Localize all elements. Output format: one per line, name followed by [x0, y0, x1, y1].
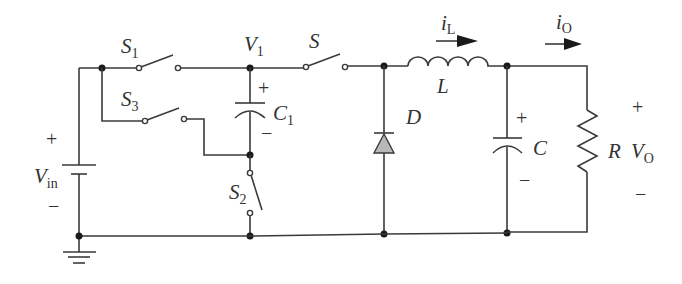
- switch-s: S: [303, 29, 347, 70]
- current-arrow-io: iO: [545, 10, 582, 50]
- capacitor-c1: + − C1: [235, 68, 294, 155]
- vo-label: VO: [631, 139, 654, 166]
- s3-label: S3: [121, 87, 139, 114]
- c1-label: C1: [273, 101, 294, 128]
- vin-label: Vin: [34, 164, 58, 191]
- s-label: S: [309, 29, 320, 53]
- capacitor-c: + − C: [493, 66, 548, 233]
- il-label: iL: [441, 11, 455, 37]
- vo-plus-sign: +: [632, 96, 643, 118]
- c-plus-sign: +: [516, 107, 527, 129]
- c1-plus-sign: +: [258, 77, 269, 99]
- r-label: R: [607, 139, 621, 163]
- wire-bottom: [79, 233, 507, 236]
- wire-s3-to-c1: [187, 119, 250, 155]
- switch-s2: S2: [229, 155, 262, 236]
- c-label: C: [533, 136, 548, 160]
- v1-label: V1: [244, 32, 264, 59]
- diode-d: D: [374, 66, 421, 234]
- dc-source-vin: + − Vin: [34, 68, 96, 236]
- wire-output-top: [507, 66, 587, 110]
- vin-plus-sign: +: [46, 128, 57, 150]
- node-ground: [76, 233, 83, 240]
- s1-label: S1: [121, 34, 139, 61]
- c1-minus-sign: −: [261, 122, 272, 144]
- vin-minus-sign: −: [48, 195, 59, 217]
- c-minus-sign: −: [519, 169, 530, 191]
- s2-label: S2: [229, 180, 247, 207]
- io-label: iO: [556, 10, 572, 36]
- l-label: L: [436, 74, 449, 98]
- current-arrow-il: iL: [436, 11, 478, 47]
- ground-icon: [63, 236, 96, 263]
- switch-s3: S3: [121, 87, 187, 124]
- d-label: D: [405, 105, 421, 129]
- vo-minus-sign: −: [635, 183, 646, 205]
- circuit-diagram: + − Vin S1 S3 V1 + − C1: [0, 0, 682, 284]
- inductor-l: L: [408, 57, 507, 98]
- switch-s1: S1: [121, 34, 181, 71]
